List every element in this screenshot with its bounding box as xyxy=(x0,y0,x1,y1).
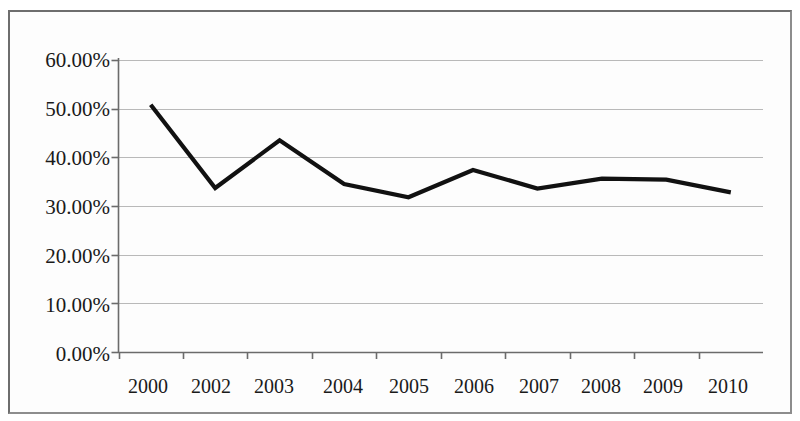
y-axis-ticks xyxy=(112,61,119,353)
plot-svg xyxy=(0,0,800,421)
line-chart: 60.00% 50.00% 40.00% 30.00% 20.00% 10.00… xyxy=(0,0,800,421)
data-series-line xyxy=(151,105,731,197)
scanned-figure-page: 60.00% 50.00% 40.00% 30.00% 20.00% 10.00… xyxy=(0,0,800,421)
